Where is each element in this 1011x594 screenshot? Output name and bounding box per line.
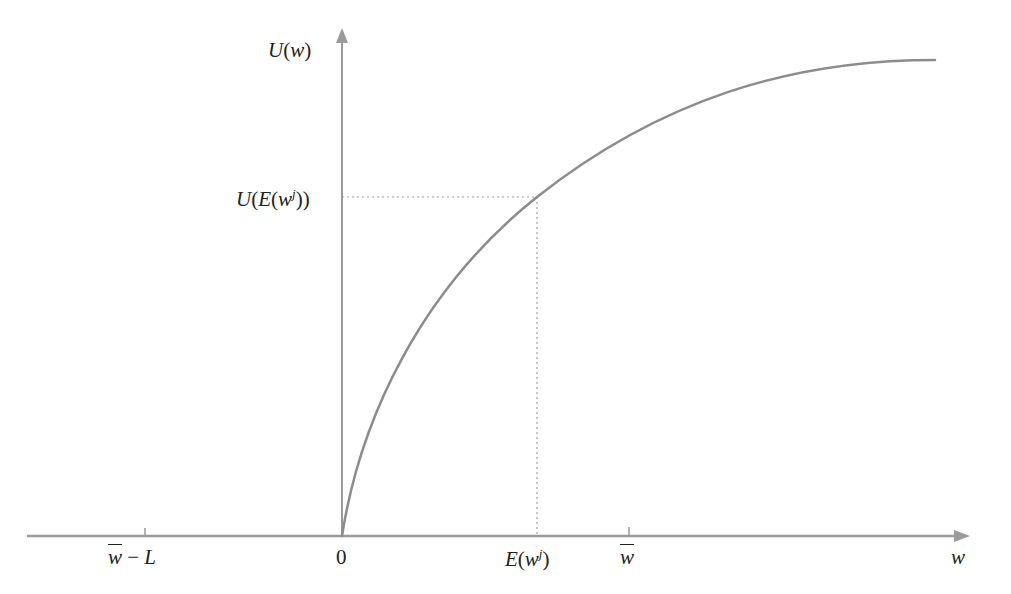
y-axis-arrow-icon (336, 28, 348, 43)
utility-curve (342, 60, 935, 536)
tick-label-expected-wealth-sup: j (539, 546, 543, 561)
guide-y-label: U(E(wj)) (236, 187, 310, 210)
tick-label-w-bar-minus-L: w − L (108, 547, 156, 568)
tick-label-minus-L: − L (122, 545, 156, 569)
guide-y-label-sup: j (292, 186, 296, 201)
y-axis-label-main: U (268, 38, 283, 62)
utility-diagram (0, 0, 1011, 594)
y-axis-label-arg: (w) (283, 38, 311, 62)
tick-label-w-bar: w (620, 547, 634, 568)
x-axis-arrow-icon (954, 530, 970, 542)
tick-label-w-bar-symbol: w (108, 545, 122, 569)
tick-label-zero: 0 (336, 547, 347, 568)
y-axis-label: U(w) (268, 40, 311, 61)
x-axis-label: w (951, 547, 965, 568)
tick-label-expected-wealth: E(wj) (505, 547, 549, 570)
